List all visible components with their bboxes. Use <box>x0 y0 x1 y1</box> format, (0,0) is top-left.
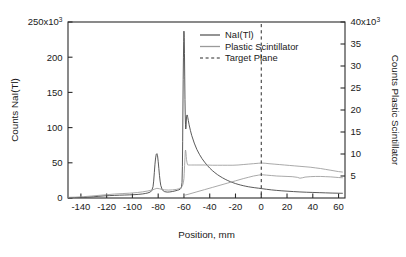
y2-tick-label: 15 <box>351 126 362 137</box>
x-tick-label: -80 <box>151 201 165 212</box>
y-tick-label: 250x103 <box>28 16 63 28</box>
y2-tick-label: 5 <box>351 170 356 181</box>
y-axis-left-title: Counts NaI(Tl) <box>9 78 20 142</box>
y2-tick-label: 30 <box>351 60 362 71</box>
x-tick-label: -40 <box>203 201 217 212</box>
legend-label-2: Target Plane <box>225 52 278 63</box>
x-tick-label: -120 <box>97 201 116 212</box>
x-tick-label: -140 <box>71 201 90 212</box>
x-tick-label: -100 <box>123 201 142 212</box>
chart-figure: -140-120-100-80-60-40-200204060 05010015… <box>0 0 406 257</box>
x-tick-label: 40 <box>308 201 319 212</box>
y2-tick-label: 25 <box>351 82 362 93</box>
x-tick-label: 0 <box>259 201 264 212</box>
y-tick-label: 150 <box>47 87 63 98</box>
y-axis-right-title: Counts Plastic Scintillator <box>390 55 401 166</box>
x-tick-label: 20 <box>282 201 293 212</box>
y2-tick-label: 40x103 <box>351 16 381 28</box>
y-tick-label: 0 <box>57 192 62 203</box>
legend-label-0: NaI(Tl) <box>225 29 254 40</box>
counts-vs-position-chart: -140-120-100-80-60-40-200204060 05010015… <box>0 0 406 257</box>
x-tick-label: -20 <box>229 201 243 212</box>
x-tick-label: 60 <box>333 201 344 212</box>
y-tick-label: 50 <box>52 157 63 168</box>
legend-label-1: Plastic Scintillator <box>225 41 298 52</box>
x-axis-title: Position, mm <box>178 229 235 240</box>
x-tick-label: -60 <box>177 201 191 212</box>
y2-tick-label: 20 <box>351 104 362 115</box>
y-tick-label: 200 <box>47 52 63 63</box>
y-tick-label: 100 <box>47 122 63 133</box>
y2-tick-label: 10 <box>351 148 362 159</box>
y2-tick-label: 35 <box>351 38 362 49</box>
